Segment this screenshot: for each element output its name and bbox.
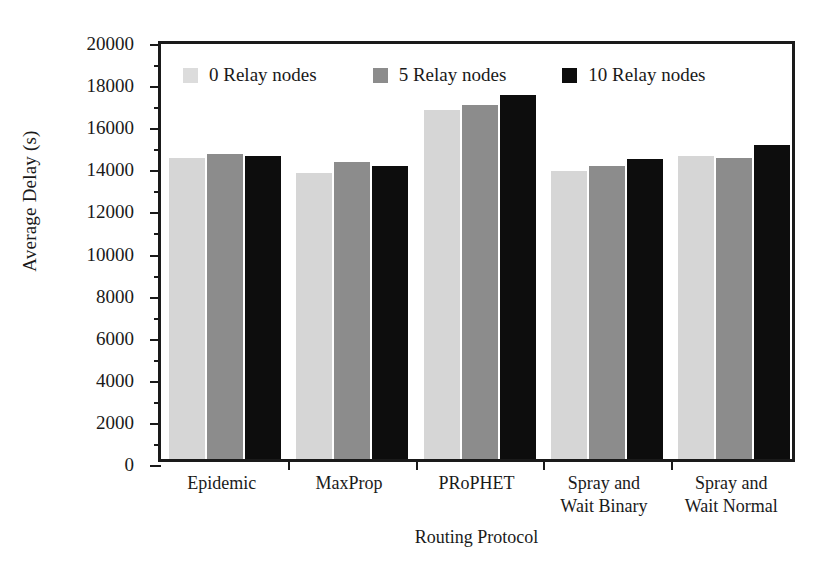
- y-axis-tick-minor: [154, 191, 161, 193]
- x-axis-title: Routing Protocol: [158, 527, 795, 548]
- y-axis-tick-minor: [154, 444, 161, 446]
- x-axis-category-label-line: Spray and: [540, 472, 667, 495]
- legend-label: 5 Relay nodes: [399, 64, 507, 86]
- legend-item: 5 Relay nodes: [373, 64, 507, 86]
- y-axis-tick-major: [150, 128, 161, 130]
- bar: [245, 156, 281, 459]
- y-axis-tick-label: 2000: [96, 412, 134, 434]
- bar: [372, 166, 408, 459]
- chart-legend: 0 Relay nodes5 Relay nodes10 Relay nodes: [161, 64, 798, 86]
- x-axis-category-label-line: PRoPHET: [413, 472, 540, 495]
- y-axis-tick-major: [150, 465, 161, 467]
- legend-item: 0 Relay nodes: [183, 64, 317, 86]
- y-axis-tick-label: 18000: [87, 75, 135, 97]
- y-axis-tick-major: [150, 339, 161, 341]
- y-axis-tick-major: [150, 212, 161, 214]
- y-axis-tick-major: [150, 423, 161, 425]
- y-axis-tick-minor: [154, 318, 161, 320]
- x-axis-category-label-line: Epidemic: [158, 472, 285, 495]
- legend-swatch-icon: [373, 68, 388, 83]
- y-axis-tick-label: 6000: [96, 328, 134, 350]
- bar: [678, 156, 714, 459]
- bar: [462, 105, 498, 459]
- y-axis-tick-major: [150, 44, 161, 46]
- y-axis-tick-label: 12000: [87, 201, 135, 223]
- plot-inner: 0200040006000800010000120001400016000180…: [161, 44, 792, 459]
- x-axis-tick: [671, 459, 673, 470]
- x-axis-category-label-line: Wait Normal: [668, 495, 795, 518]
- bar: [754, 145, 790, 459]
- y-axis-tick-minor: [154, 149, 161, 151]
- y-axis-tick-minor: [154, 276, 161, 278]
- y-axis-tick-minor: [154, 360, 161, 362]
- plot-area: 0200040006000800010000120001400016000180…: [158, 41, 795, 462]
- y-axis-tick-minor: [154, 107, 161, 109]
- legend-label: 10 Relay nodes: [588, 64, 705, 86]
- x-axis-category-label-line: Wait Binary: [540, 495, 667, 518]
- y-axis-tick-label: 4000: [96, 370, 134, 392]
- x-axis-category-label: Spray andWait Normal: [668, 472, 795, 518]
- y-axis-tick-label: 16000: [87, 117, 135, 139]
- y-axis-tick-major: [150, 255, 161, 257]
- bar: [716, 158, 752, 459]
- y-axis-tick-major: [150, 170, 161, 172]
- y-axis-tick-minor: [154, 402, 161, 404]
- x-axis-tick: [288, 459, 290, 470]
- bar-chart-figure: Average Delay (s) 0200040006000800010000…: [0, 0, 835, 584]
- legend-label: 0 Relay nodes: [209, 64, 317, 86]
- bar: [207, 154, 243, 459]
- legend-swatch-icon: [562, 68, 577, 83]
- y-axis-tick-label: 20000: [87, 33, 135, 55]
- y-axis-tick-minor: [154, 233, 161, 235]
- y-axis-tick-label: 10000: [87, 244, 135, 266]
- bar: [424, 110, 460, 459]
- bar: [500, 95, 536, 459]
- legend-swatch-icon: [183, 68, 198, 83]
- x-axis-category-label: Spray andWait Binary: [540, 472, 667, 518]
- y-axis-tick-label: 8000: [96, 286, 134, 308]
- y-axis-tick-label: 0: [125, 454, 135, 476]
- y-axis-tick-minor: [154, 65, 161, 67]
- bar: [296, 173, 332, 459]
- y-axis-title: Average Delay (s): [19, 51, 41, 351]
- x-axis-category-label-line: Spray and: [668, 472, 795, 495]
- x-axis-category-label: PRoPHET: [413, 472, 540, 495]
- bar: [551, 171, 587, 459]
- y-axis-tick-major: [150, 381, 161, 383]
- bar: [334, 162, 370, 459]
- y-axis-tick-major: [150, 86, 161, 88]
- x-axis-category-label: Epidemic: [158, 472, 285, 495]
- x-axis-tick: [416, 459, 418, 470]
- bar: [627, 159, 663, 459]
- legend-item: 10 Relay nodes: [562, 64, 705, 86]
- bar: [169, 158, 205, 459]
- x-axis-category-label: MaxProp: [285, 472, 412, 495]
- bar: [589, 166, 625, 459]
- y-axis-tick-label: 14000: [87, 159, 135, 181]
- x-axis-tick: [543, 459, 545, 470]
- x-axis-category-label-line: MaxProp: [285, 472, 412, 495]
- y-axis-tick-major: [150, 297, 161, 299]
